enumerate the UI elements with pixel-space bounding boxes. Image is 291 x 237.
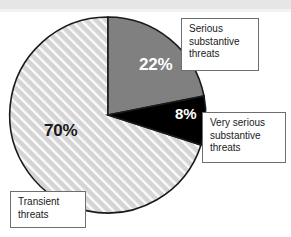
- slice-value-transient: 70%: [44, 122, 77, 139]
- callout-label-transient: Transient threats: [10, 191, 86, 228]
- callout-label-very-serious: Very serious substantive threats: [202, 112, 286, 163]
- pie-chart-figure: 22% 8% 70% Serious substantive threats V…: [0, 0, 291, 237]
- slice-value-very-serious: 8%: [175, 106, 196, 121]
- slice-value-serious: 22%: [139, 56, 172, 73]
- callout-label-serious: Serious substantive threats: [181, 18, 259, 71]
